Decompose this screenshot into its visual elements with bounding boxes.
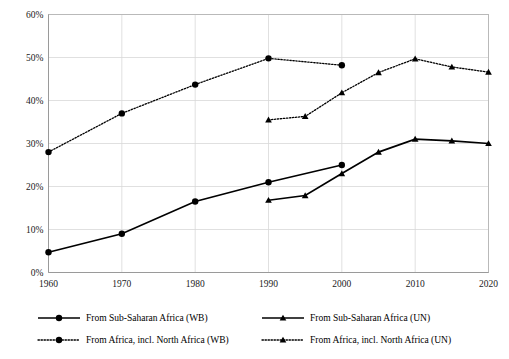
x-tick-label: 1990 <box>259 279 278 289</box>
data-point-ssa_wb <box>119 231 125 237</box>
line-chart: 0%10%20%30%40%50%60% 1960197019801990200… <box>0 0 509 359</box>
x-tick-label: 1970 <box>112 279 131 289</box>
x-tick-label: 1960 <box>39 279 58 289</box>
x-axis-tick-labels: 1960197019801990200020102020 <box>39 279 498 289</box>
x-tick-label: 2020 <box>479 279 498 289</box>
data-point-africa_un <box>412 55 419 61</box>
legend-label-1: From Sub-Saharan Africa (UN) <box>310 313 430 324</box>
y-tick-label: 20% <box>26 182 44 192</box>
legend-marker-2 <box>56 337 62 343</box>
y-tick-label: 60% <box>26 10 44 20</box>
x-tick-label: 2000 <box>332 279 351 289</box>
series-line-africa_un <box>269 59 489 120</box>
data-point-africa_wb <box>265 55 271 61</box>
data-point-africa_un <box>265 117 272 123</box>
legend-label-0: From Sub-Saharan Africa (WB) <box>86 313 208 324</box>
data-point-ssa_wb <box>192 198 198 204</box>
data-point-africa_wb <box>119 110 125 116</box>
gridlines <box>49 15 489 273</box>
data-point-ssa_wb <box>45 249 51 255</box>
x-tick-label: 1980 <box>186 279 205 289</box>
y-tick-label: 30% <box>26 139 44 149</box>
data-point-ssa_un <box>338 170 345 176</box>
y-tick-label: 0% <box>31 268 44 278</box>
legend-marker-0 <box>56 315 62 321</box>
data-point-africa_wb <box>45 149 51 155</box>
series-line-ssa_un <box>269 139 489 200</box>
y-tick-label: 40% <box>26 96 44 106</box>
data-point-ssa_wb <box>339 162 345 168</box>
y-tick-label: 10% <box>26 225 44 235</box>
data-point-africa_wb <box>339 62 345 68</box>
legend-label-2: From Africa, incl. North Africa (WB) <box>86 335 229 346</box>
y-tick-label: 50% <box>26 53 44 63</box>
data-point-africa_un <box>338 89 345 95</box>
x-tick-label: 2010 <box>406 279 425 289</box>
chart-legend: From Sub-Saharan Africa (WB)From Sub-Sah… <box>38 313 451 346</box>
y-axis-tick-labels: 0%10%20%30%40%50%60% <box>26 10 44 278</box>
data-point-ssa_wb <box>265 179 271 185</box>
chart-container: 0%10%20%30%40%50%60% 1960197019801990200… <box>0 0 509 359</box>
legend-label-3: From Africa, incl. North Africa (UN) <box>310 335 451 346</box>
data-point-africa_wb <box>192 81 198 87</box>
